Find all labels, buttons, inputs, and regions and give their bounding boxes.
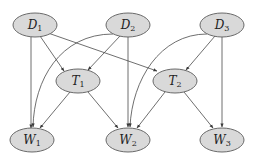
graph-canvas: D1 D2 D3 T1 T2 W1 W2 W3 [0,0,257,164]
node-w3: W3 [200,128,244,152]
edge-t2-w3 [184,92,213,128]
node-w1: W1 [10,128,54,152]
edge-d3-t2 [186,36,215,70]
edge-d2-t1 [88,36,120,70]
node-d2: D2 [106,13,150,37]
edge-d1-t2 [48,33,157,71]
node-t2: T2 [153,69,197,93]
node-d1: D1 [13,13,57,37]
node-t1: T1 [56,69,100,93]
node-d3: D3 [200,13,244,37]
edge-t1-w1 [40,92,70,128]
edge-d1-t1 [40,36,64,71]
edge-t2-w2 [137,92,165,128]
node-w2: W2 [106,128,150,152]
edge-t1-w2 [88,92,118,128]
